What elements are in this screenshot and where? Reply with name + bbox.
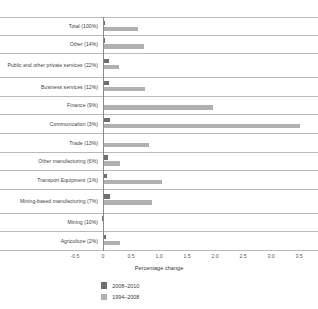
category-label: Other manufacturing (6%) xyxy=(0,153,103,171)
bar-track xyxy=(103,78,318,96)
percentage-change-bar-chart: Total (100%)Other (14%)Public and other … xyxy=(0,0,318,309)
x-tick-label: 1.0 xyxy=(155,253,162,259)
bar-light xyxy=(103,124,300,128)
bar-light xyxy=(103,143,149,147)
x-tick-label: 0 xyxy=(102,253,105,259)
x-tick-label: 3.0 xyxy=(267,253,274,259)
bar-track xyxy=(103,134,318,152)
bar-light xyxy=(103,87,145,91)
bar-light xyxy=(103,180,162,184)
legend-label: 1994–2008 xyxy=(112,294,139,300)
bar-light xyxy=(103,65,119,69)
category-rows: Total (100%)Other (14%)Public and other … xyxy=(0,17,318,251)
x-tick-label: 2.0 xyxy=(211,253,218,259)
legend-swatch-icon xyxy=(101,282,107,288)
bar-track xyxy=(103,171,318,189)
bar-track xyxy=(103,36,318,54)
bar-track xyxy=(103,214,318,232)
chart-row: Other (14%) xyxy=(0,36,318,55)
x-tick-label: 2.5 xyxy=(239,253,246,259)
chart-row: Transport Equipment (1%) xyxy=(0,171,318,190)
x-tick-label: 1.5 xyxy=(183,253,190,259)
chart-row: Communication (3%) xyxy=(0,115,318,134)
chart-row: Business services (12%) xyxy=(0,78,318,97)
category-label: Finance (9%) xyxy=(0,97,103,115)
category-label: Mining (10%) xyxy=(0,214,103,232)
category-label: Communication (3%) xyxy=(0,115,103,133)
category-label: Trade (13%) xyxy=(0,134,103,152)
chart-legend: 2008–20101994–2008 xyxy=(101,281,251,304)
bar-dark xyxy=(103,118,110,122)
category-label: Other (14%) xyxy=(0,36,103,54)
bar-light xyxy=(103,105,213,109)
legend-item: 1994–2008 xyxy=(101,293,251,302)
legend-item: 2008–2010 xyxy=(101,281,251,290)
category-label: Business services (12%) xyxy=(0,78,103,96)
bar-track xyxy=(103,153,318,171)
x-tick-label: 0.5 xyxy=(127,253,134,259)
bar-light xyxy=(103,241,120,245)
chart-row: Trade (13%) xyxy=(0,134,318,153)
bar-track xyxy=(103,115,318,133)
bar-dark xyxy=(103,194,110,198)
bar-light xyxy=(103,200,152,204)
chart-row: Agriculture (2%) xyxy=(0,232,318,251)
bar-light xyxy=(103,161,120,165)
zero-axis-line xyxy=(103,17,104,251)
legend-label: 2008–2010 xyxy=(112,283,139,289)
bar-track xyxy=(103,232,318,250)
legend-swatch-icon xyxy=(101,294,107,300)
chart-row: Other manufacturing (6%) xyxy=(0,153,318,172)
x-tick-label: -0.5 xyxy=(71,253,80,259)
chart-row: Finance (9%) xyxy=(0,97,318,116)
category-label: Agriculture (2%) xyxy=(0,232,103,250)
category-label: Mining-based manufacturing (7%) xyxy=(0,190,103,213)
chart-row: Mining-based manufacturing (7%) xyxy=(0,190,318,214)
category-label: Public and other private services (22%) xyxy=(0,54,103,77)
bar-track xyxy=(103,54,318,77)
bar-track xyxy=(103,18,318,35)
x-axis-title: Percentage change xyxy=(0,265,318,271)
category-label: Transport Equipment (1%) xyxy=(0,171,103,189)
bar-light xyxy=(103,44,144,48)
chart-row: Public and other private services (22%) xyxy=(0,54,318,78)
bar-light xyxy=(103,27,138,31)
chart-row: Total (100%) xyxy=(0,17,318,36)
category-label: Total (100%) xyxy=(0,18,103,35)
chart-row: Mining (10%) xyxy=(0,214,318,233)
bar-track xyxy=(103,190,318,213)
bar-track xyxy=(103,97,318,115)
x-tick-label: 3.5 xyxy=(295,253,302,259)
